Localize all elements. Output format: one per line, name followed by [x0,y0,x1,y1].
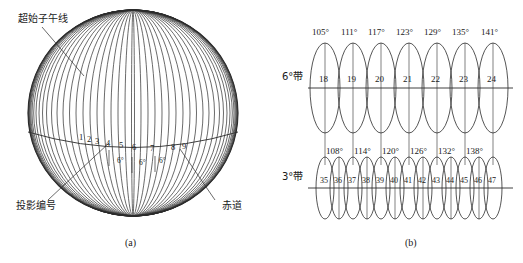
band6-zone-number: 20 [375,75,384,84]
band3-zone-number: 42 [418,177,426,185]
band3-degree-label: 138° [466,147,483,156]
band3-zone-number: 37 [348,177,356,185]
band3-label: 3°带 [282,172,303,182]
equator-span-label: 6° [159,157,166,165]
equator-span-label: 6° [117,157,124,165]
band3-degree-label: 132° [438,147,455,156]
meridian-lines [28,10,237,216]
panel-b-caption: (b) [405,238,417,248]
equator-zone-number: 9 [182,142,186,151]
band6-zone-number: 19 [347,75,356,84]
label-equator: 赤道 [222,201,242,211]
band3-degree-label: 120° [382,147,399,156]
equator-span-label: 6° [139,159,146,167]
band6-degree-label: 141° [481,28,498,37]
equator-zone-number: 8 [171,143,175,152]
band3-zone-number: 38 [362,177,370,185]
band6-degree-label: 135° [452,28,469,37]
band6-zone-number: 18 [319,75,328,84]
leader-lines [42,27,215,200]
equator-span-ticks [109,150,155,173]
equator-zone-number: 6 [132,143,136,152]
band6-zone-number: 21 [403,75,412,84]
band3-zone-number: 46 [474,177,482,185]
equator-zone-number: 2 [87,135,91,144]
band3-degree-label: 114° [354,147,371,156]
equator-zone-number: 7 [150,144,154,153]
band3-degree-label: 126° [410,147,427,156]
band6-degree-label: 111° [341,28,357,37]
band3-zone-number: 45 [460,177,468,185]
panel-a-caption: (a) [125,238,136,248]
band6-degree-label: 117° [368,28,385,37]
equator-zone-number: 4 [106,139,110,148]
equator-zone-number: 1 [79,133,83,142]
figure-container: 超始子午线 投影编号 赤道 1 2 3 4 5 6 7 8 9 6° 6° 6°… [0,0,523,263]
zone-strip-group [308,43,513,219]
band3-zone-number: 35 [320,177,328,185]
band3-zone-number: 41 [404,177,412,185]
globe-group [28,10,238,216]
equator-zone-number: 3 [95,137,99,146]
band3-degree-label: 108° [326,147,343,156]
band3-zone-number: 47 [488,177,496,185]
band6-label: 6°带 [282,72,303,82]
band6-degree-label: 123° [396,28,413,37]
label-prime-meridian: 超始子午线 [18,14,68,24]
equator-zone-number: 5 [119,141,123,150]
label-projection-number: 投影编号 [16,201,56,211]
band6-zone-number: 23 [459,75,468,84]
band3-zone-number: 43 [432,177,440,185]
band6-zone-number: 22 [431,75,440,84]
band3-zone-number: 40 [390,177,398,185]
band3-zone-number: 36 [334,177,342,185]
band3-zone-number: 39 [376,177,384,185]
band6-zone-number: 24 [487,75,496,84]
band3-zone-number: 44 [446,177,454,185]
band6-degree-label: 129° [424,28,441,37]
band6-degree-label: 105° [312,28,329,37]
